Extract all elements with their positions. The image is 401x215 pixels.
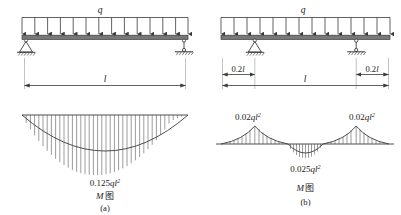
panel-b-overhang-right-dimension: 0.2l <box>356 58 388 89</box>
panel-a-moment-exponent: 2 <box>117 177 120 184</box>
panel-a-moment-coefficient: 0.125 <box>90 178 111 188</box>
panel-a-link-roller-support <box>175 39 194 55</box>
panel-a-beam <box>22 35 188 39</box>
panel-b-caption: (b) <box>300 197 310 207</box>
load-arrows-b <box>221 18 390 35</box>
panel-b-right-coefficient: 0.02 <box>349 112 365 122</box>
panel-a-pin-ground-hatch <box>18 52 35 55</box>
panel-b-roller-ground-hatch <box>348 52 365 55</box>
panel-b-overhang-right-label: 0.2l <box>365 64 379 74</box>
panel-b-link-roller-support <box>347 39 366 55</box>
panel-a-moment-diagram: 0.125ql2 M图 (a) <box>22 115 188 213</box>
panel-b-beam <box>221 35 390 39</box>
panel-b: q <box>216 5 394 207</box>
panel-b-moment-diagram: 0.02ql2 0.02ql2 0.025ql2 M图 (b) <box>216 111 394 207</box>
panel-b-right-moment-label: 0.02ql2 <box>349 111 375 122</box>
panel-b-moment-diagram-label: M图 <box>296 183 315 193</box>
moment-parabola <box>22 115 188 151</box>
moment-hatch-b-right <box>327 126 384 144</box>
figure-svg: q <box>0 0 401 215</box>
moment-hatch-b-left <box>226 126 283 144</box>
panel-a-span-dimension: l <box>25 58 186 89</box>
panel-a-caption: (a) <box>100 203 110 213</box>
moment-hatch-a <box>26 115 181 175</box>
panel-a-span-label: l <box>104 74 107 84</box>
panel-a-load-label: q <box>98 5 103 15</box>
structural-diagram-figure: q <box>0 0 401 215</box>
panel-a-pin-support <box>17 39 36 56</box>
panel-a-roller-ground-hatch <box>176 52 193 55</box>
panel-b-load-label: q <box>301 5 306 15</box>
panel-b-span-dimension: l <box>223 74 389 86</box>
panel-a-distributed-load: q <box>22 5 188 34</box>
panel-b-left-coefficient: 0.02 <box>235 112 251 122</box>
panel-b-pin-support <box>246 39 265 56</box>
panel-b-span-label: l <box>304 74 307 84</box>
load-arrows <box>22 18 188 35</box>
panel-a: q <box>17 5 194 213</box>
panel-b-overhang-left-dimension: 0.2l <box>223 58 255 89</box>
panel-a-moment-diagram-label: M图 <box>95 191 114 201</box>
moment-hatch-b-center <box>291 144 321 158</box>
panel-b-span-moment-label: 0.025ql2 <box>290 163 320 174</box>
moment-left-hump <box>221 126 288 144</box>
panel-b-pin-ground-hatch <box>247 52 264 55</box>
panel-b-span-coefficient: 0.025 <box>290 164 311 174</box>
panel-a-max-moment-label: 0.125ql2 <box>90 177 120 188</box>
panel-b-distributed-load: q <box>221 5 390 34</box>
panel-b-overhang-left-label: 0.2l <box>231 64 245 74</box>
panel-b-left-moment-label: 0.02ql2 <box>235 111 261 122</box>
